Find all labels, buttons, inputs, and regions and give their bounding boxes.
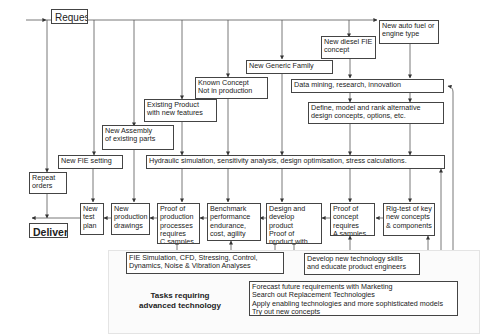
request-new-generic-family: New Generic Family bbox=[246, 60, 333, 74]
request-new-diesel-fie: New diesel FIE concept bbox=[321, 36, 376, 59]
request-known-concept: Known Concept Not in production bbox=[195, 77, 268, 99]
stage-new-test-plan: New test plan bbox=[80, 203, 104, 235]
task-develop-skills: Develop new technology skills and educat… bbox=[304, 253, 420, 275]
step-define-model: Define, model and rank alternative desig… bbox=[308, 102, 444, 124]
stage-proof-of-production: Proof of production processes requires C… bbox=[157, 203, 200, 244]
request-new-fie-setting: New FIE setting bbox=[58, 155, 123, 169]
stage-benchmark: Benchmark performance endurance, cost, a… bbox=[207, 203, 261, 241]
request-repeat-orders: Repeat orders bbox=[29, 172, 67, 194]
stage-rig-test: Rig-test of key new concepts & component… bbox=[383, 203, 435, 236]
delivery-box: Delivery bbox=[29, 223, 68, 238]
stage-proof-of-concept: Proof of concept requires A samples bbox=[330, 203, 375, 236]
request-existing-product: Existing Product with new features bbox=[144, 99, 217, 122]
request-box: Request bbox=[51, 9, 88, 24]
step-data-mining: Data mining, research, innovation bbox=[291, 79, 444, 93]
task-fie-simulation: FIE Simulation, CFD, Stressing, Control,… bbox=[126, 252, 284, 274]
step-hydraulic-simulation: Hydraulic simulation, sensitivity analys… bbox=[146, 155, 445, 169]
task-forecast: Forecast future requirements with Market… bbox=[249, 281, 458, 316]
request-new-assembly: New Assembly of existing parts bbox=[102, 125, 174, 150]
advanced-technology-title: Tasks requiring advanced technology bbox=[120, 291, 240, 311]
stage-design-develop: Design and develop product Proof of prod… bbox=[266, 203, 322, 244]
request-new-auto-fuel: New auto fuel or engine type bbox=[379, 20, 439, 44]
stage-new-production-drawings: New production drawings bbox=[111, 203, 150, 235]
